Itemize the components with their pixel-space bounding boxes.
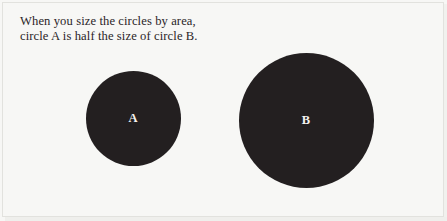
circle-b-label: B — [302, 114, 310, 127]
circle-b: B — [239, 53, 374, 188]
caption-line-1: When you size the circles by area, — [20, 14, 320, 29]
figure-edge-bottom — [5, 217, 447, 221]
circle-a: A — [86, 71, 181, 166]
figure-caption: When you size the circles by area, circl… — [20, 14, 320, 45]
figure-container: When you size the circles by area, circl… — [0, 0, 447, 221]
circle-a-label: A — [128, 112, 137, 125]
caption-line-2: circle A is half the size of circle B. — [20, 29, 320, 44]
